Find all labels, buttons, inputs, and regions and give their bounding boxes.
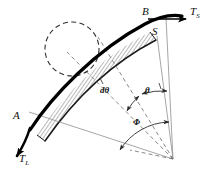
diagram-canvas <box>0 0 219 174</box>
radius-phi-leg <box>130 150 173 159</box>
radius-to-a <box>29 112 173 159</box>
radius-to-b <box>166 18 173 159</box>
tension-tight-subscript: S <box>196 12 200 20</box>
detail-circle <box>45 22 99 76</box>
label-point-a: A <box>13 110 20 121</box>
label-angle-phi: Φ <box>133 118 140 127</box>
label-angle-theta: θ <box>145 86 150 95</box>
angle-arc-dtheta <box>127 96 139 111</box>
label-angle-dtheta: dθ <box>100 86 109 95</box>
label-point-b: B <box>142 6 149 17</box>
radius-dtheta-2 <box>98 37 173 159</box>
angle-arc-phi <box>120 122 169 150</box>
label-point-s: S <box>152 26 158 37</box>
label-tension-slack: TL <box>19 153 29 167</box>
tension-slack-subscript: L <box>25 159 29 167</box>
radius-to-s <box>157 36 173 159</box>
label-tension-tight: TS <box>190 6 200 20</box>
belt-friction-diagram: A B S TL TS dθ θ Φ <box>0 0 219 174</box>
